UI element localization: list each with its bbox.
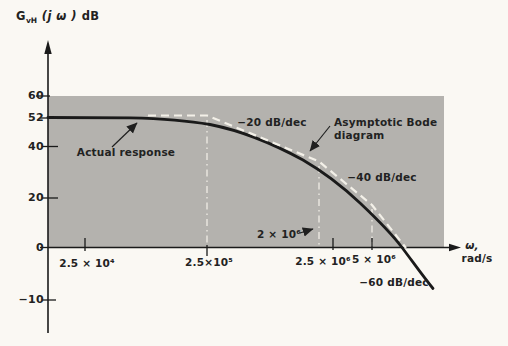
ytick-label-40: 40 (6, 140, 44, 154)
ytick-label-neg10: −10 (6, 293, 44, 307)
asymptotic-label-line1: Asymptotic Bode (334, 116, 437, 129)
ytick-label-0: 0 (6, 241, 44, 255)
asymptotic-label-line2: diagram (334, 129, 437, 142)
bode-figure: GvH (j ω ) dB 60 52 40 20 0 −10 2.5 × 10… (0, 0, 508, 346)
y-axis-title: GvH (j ω ) dB (16, 9, 100, 25)
xtick-label-2.5e4: 2.5 × 10⁴ (59, 257, 115, 270)
bode-plot-canvas (0, 0, 508, 346)
y-axis-title-sub: vH (26, 16, 37, 25)
ytick-label-20: 20 (6, 191, 44, 205)
ytick-label-60: 60 (6, 89, 44, 103)
x-axis-arrowhead (449, 244, 461, 252)
y-axis-title-unit: dB (82, 9, 100, 23)
slope-label-40: −40 dB/dec (347, 171, 416, 184)
x-axis-unit-rads: rad/s (462, 252, 493, 265)
actual-response-label: Actual response (77, 146, 175, 159)
xtick-label-5e6: 5 × 10⁶ (352, 253, 396, 266)
y-axis-arrowhead (44, 40, 51, 54)
y-axis-title-paren: (j ω ) (42, 9, 77, 23)
y-axis-title-base: G (16, 9, 26, 23)
xtick-label-2.5e6: 2.5 × 10⁶ (295, 255, 351, 268)
corner-2e6-label: 2 × 10⁶ (257, 228, 301, 241)
x-axis-unit-omega: ω, (465, 239, 479, 252)
ytick-label-52: 52 (6, 111, 44, 125)
slope-label-20: −20 dB/dec (237, 116, 306, 129)
slope-label-60: −60 dB/dec (359, 276, 428, 289)
asymptotic-label: Asymptotic Bode diagram (334, 116, 437, 142)
xtick-label-2.5e5: 2.5×10⁵ (185, 256, 233, 269)
